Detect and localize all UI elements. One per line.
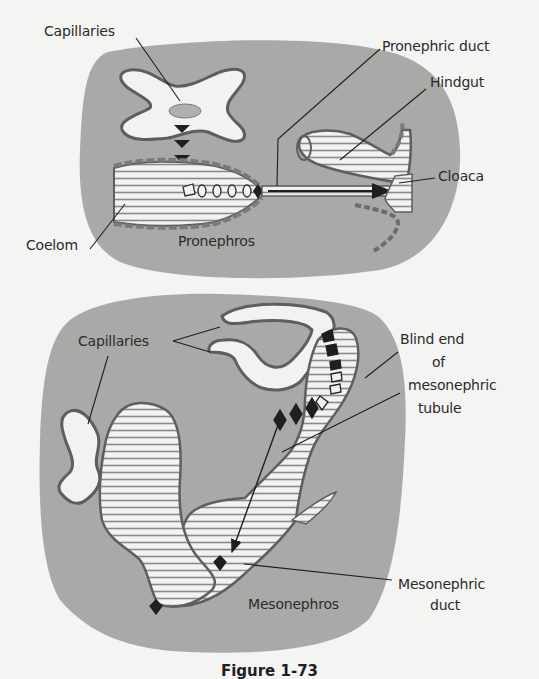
label-hindgut: Hindgut <box>430 74 484 91</box>
label-mesonephric-duct-line1: Mesonephric <box>398 576 485 593</box>
label-mesonephros-title: Mesonephros <box>248 596 339 613</box>
label-blind-end-line4: tubule <box>418 400 461 417</box>
label-blind-end-line3: mesonephric <box>408 377 497 394</box>
label-blind-end-line1: Blind end <box>400 331 464 348</box>
label-capillaries-bottom: Capillaries <box>78 333 149 350</box>
label-pronephros-title: Pronephros <box>178 233 255 250</box>
label-cloaca: Cloaca <box>438 168 484 185</box>
label-mesonephric-duct-line2: duct <box>430 597 460 614</box>
label-pronephric-duct: Pronephric duct <box>382 38 489 55</box>
label-blind-end-line2: of <box>432 354 445 371</box>
figure-caption: Figure 1-73 <box>0 662 539 679</box>
label-capillaries-top: Capillaries <box>44 23 115 40</box>
capillary-nucleus <box>169 104 201 118</box>
pronephros-panel <box>80 38 460 278</box>
label-coelom: Coelom <box>26 237 78 254</box>
